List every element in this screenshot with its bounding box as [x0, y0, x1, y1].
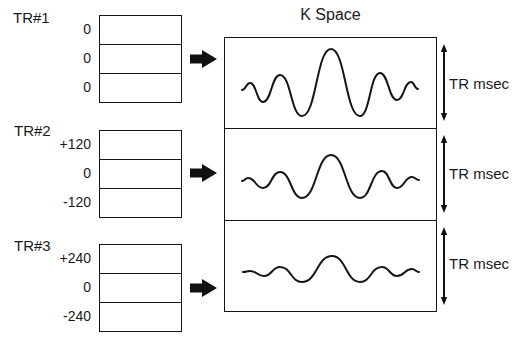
slice-line-row — [100, 273, 181, 302]
slice-line-row — [100, 73, 181, 102]
slice-lines-box — [99, 130, 182, 218]
phase-gradient-value: 0 — [40, 159, 91, 188]
slice-line-row — [100, 16, 181, 44]
phase-gradient-value: +240 — [40, 244, 91, 273]
slice-lines-box — [99, 244, 182, 332]
right-arrow-icon — [190, 279, 217, 297]
kspace-box — [224, 37, 437, 312]
phase-gradient-value: -120 — [40, 188, 91, 217]
slice-line-row — [100, 302, 181, 331]
double-arrow-icon — [439, 44, 449, 121]
slice-line-row — [100, 131, 181, 159]
kspace-row — [225, 38, 436, 128]
echo-signal-waveform — [224, 219, 437, 311]
k-space-diagram: TR#1 0 0 0 TR#2 +120 0 -120 TR#3 +240 0 … — [0, 0, 521, 338]
slice-line-row — [100, 188, 181, 217]
phase-gradient-labels: 0 0 0 — [40, 15, 91, 102]
double-arrow-icon — [439, 135, 449, 213]
duration-label: TR msec — [449, 165, 509, 183]
phase-gradient-value: 0 — [40, 44, 91, 73]
kspace-row — [225, 220, 436, 311]
double-arrow-icon — [439, 227, 449, 305]
echo-signal-waveform — [224, 37, 437, 129]
right-arrow-icon — [190, 164, 217, 182]
slice-line-row — [100, 44, 181, 73]
right-arrow-icon — [190, 50, 217, 68]
slice-lines-box — [99, 15, 182, 103]
echo-signal-waveform — [224, 128, 437, 220]
slice-line-row — [100, 159, 181, 188]
duration-label: TR msec — [449, 255, 509, 273]
phase-gradient-value: +120 — [40, 130, 91, 159]
phase-gradient-value: 0 — [40, 15, 91, 44]
duration-label: TR msec — [449, 75, 509, 93]
kspace-row — [225, 128, 436, 219]
slice-line-row — [100, 245, 181, 273]
phase-gradient-labels: +120 0 -120 — [40, 130, 91, 217]
phase-gradient-value: 0 — [40, 273, 91, 302]
phase-gradient-value: 0 — [40, 73, 91, 102]
kspace-title: K Space — [224, 6, 437, 24]
phase-gradient-labels: +240 0 -240 — [40, 244, 91, 331]
phase-gradient-value: -240 — [40, 302, 91, 331]
